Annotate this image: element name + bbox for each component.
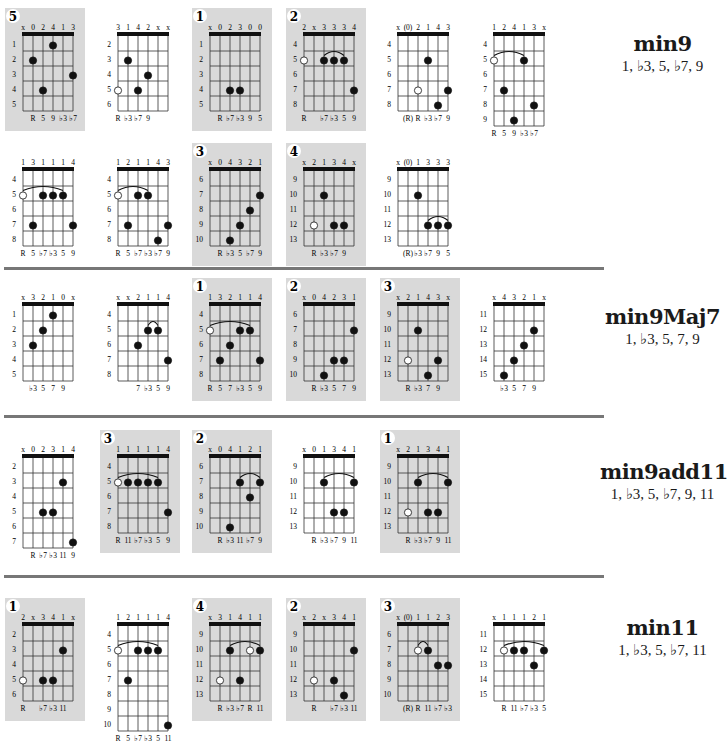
chord-diagram: x4321x1112131415♭3579 <box>476 278 556 401</box>
interval-label: 9 <box>436 384 440 393</box>
interval-label: 11 <box>59 551 66 560</box>
finger-number: 1 <box>416 293 420 302</box>
fret-number: 7 <box>12 220 16 229</box>
finger-number: x <box>302 445 306 454</box>
finger-number: 1 <box>136 445 140 454</box>
finger-dot <box>49 312 56 319</box>
root-note-open-dot <box>246 647 253 654</box>
fret-number: 12 <box>384 355 392 364</box>
interval-label: R <box>217 249 222 258</box>
finger-number: 1 <box>41 158 45 167</box>
chord-svg: 13111445678R5♭7♭359 <box>5 143 85 266</box>
finger-number: x <box>156 23 160 32</box>
interval-label: (R) <box>403 249 414 258</box>
fret-number: 13 <box>290 690 298 699</box>
finger-dot <box>330 57 337 64</box>
finger-dot <box>530 102 537 109</box>
interval-label: ♭3 <box>320 249 328 258</box>
finger-number: x <box>396 613 400 622</box>
finger-dot <box>444 479 451 486</box>
position-badge-number: 1 <box>9 600 17 614</box>
finger-number: x <box>446 293 450 302</box>
fret-number: 6 <box>12 690 16 699</box>
finger-dot <box>330 677 337 684</box>
finger-number: 1 <box>352 445 356 454</box>
finger-dot <box>256 357 263 364</box>
finger-number: x <box>302 293 306 302</box>
interval-label: ♭7 <box>134 536 142 545</box>
finger-number: 1 <box>21 158 25 167</box>
fret-number: 5 <box>199 100 203 109</box>
finger-number: 4 <box>258 293 262 302</box>
interval-label: ♭3 <box>530 704 538 713</box>
finger-number: 3 <box>322 23 326 32</box>
finger-number: x <box>542 293 546 302</box>
finger-dot <box>226 87 233 94</box>
chord-diagram: 3x04321678910R♭35♭79 <box>192 143 272 266</box>
chord-diagram: 3142xx23456R♭3♭79 <box>100 8 180 131</box>
interval-label: R <box>405 384 410 393</box>
interval-label: 9 <box>166 384 170 393</box>
interval-label: R <box>415 704 420 713</box>
nut <box>493 302 545 306</box>
finger-number: x <box>208 158 212 167</box>
finger-number: x <box>71 613 75 622</box>
finger-dot <box>340 509 347 516</box>
fret-number: 4 <box>293 40 297 49</box>
fret-number: 1 <box>199 40 203 49</box>
fret-number: 13 <box>384 235 392 244</box>
finger-number: 4 <box>71 158 75 167</box>
finger-number: 3 <box>218 293 222 302</box>
interval-label: 11 <box>256 704 263 713</box>
finger-number: (0) <box>404 158 413 167</box>
finger-number: 1 <box>136 158 140 167</box>
finger-number: 1 <box>116 445 120 454</box>
chord-formula: 1, ♭3, 5, ♭7, 9, 11 <box>600 484 725 504</box>
finger-number: 1 <box>146 158 150 167</box>
fret-number: 8 <box>483 100 487 109</box>
finger-dot <box>320 57 327 64</box>
root-note-open-dot <box>19 677 26 684</box>
finger-number: 3 <box>31 293 35 302</box>
fret-number: 1 <box>12 310 16 319</box>
interval-label: ♭7 <box>520 704 528 713</box>
interval-label: ♭3 <box>144 734 152 743</box>
interval-label: ♭3 <box>414 249 422 258</box>
finger-number: 1 <box>238 445 242 454</box>
finger-dot <box>444 87 451 94</box>
interval-label: 5 <box>542 704 546 713</box>
chord-title-min9: min9 1, ♭3, 5, ♭7, 9 <box>600 32 725 76</box>
finger-number: 3 <box>238 23 242 32</box>
finger-number: 2 <box>21 613 25 622</box>
fret-number: 10 <box>384 690 392 699</box>
fret-number: 8 <box>107 370 111 379</box>
finger-dot <box>144 479 151 486</box>
nut <box>493 622 545 626</box>
interval-label: R <box>217 704 222 713</box>
finger-number: x <box>302 613 306 622</box>
finger-dot <box>226 647 233 654</box>
finger-dot <box>434 509 441 516</box>
finger-number: 3 <box>342 293 346 302</box>
chord-svg: 5x0241312345R59♭3♭7 <box>5 8 85 131</box>
fret-number: 9 <box>199 630 203 639</box>
interval-label: 9 <box>61 384 65 393</box>
fret-number: 3 <box>12 70 16 79</box>
interval-label: 9 <box>512 129 516 138</box>
barre-arc <box>148 322 158 326</box>
position-badge-number: 3 <box>384 280 392 294</box>
finger-dot <box>500 87 507 94</box>
chord-svg: x3210x12345♭3579 <box>5 278 85 401</box>
interval-label: R <box>20 704 25 713</box>
fret-number: 10 <box>384 477 392 486</box>
interval-label: 9 <box>166 536 170 545</box>
finger-number: x <box>322 613 326 622</box>
chord-svg: 22x333445678R♭7♭359 <box>286 8 366 131</box>
finger-number: x <box>21 23 25 32</box>
finger-number: 1 <box>61 613 65 622</box>
interval-label: R <box>491 129 496 138</box>
chord-diagram: 3x2143x910111213R♭379 <box>380 278 460 401</box>
fret-number: 10 <box>384 325 392 334</box>
chord-title-min11: min11 1, ♭3, 5, ♭7, 11 <box>600 616 725 660</box>
finger-number: x <box>302 158 306 167</box>
